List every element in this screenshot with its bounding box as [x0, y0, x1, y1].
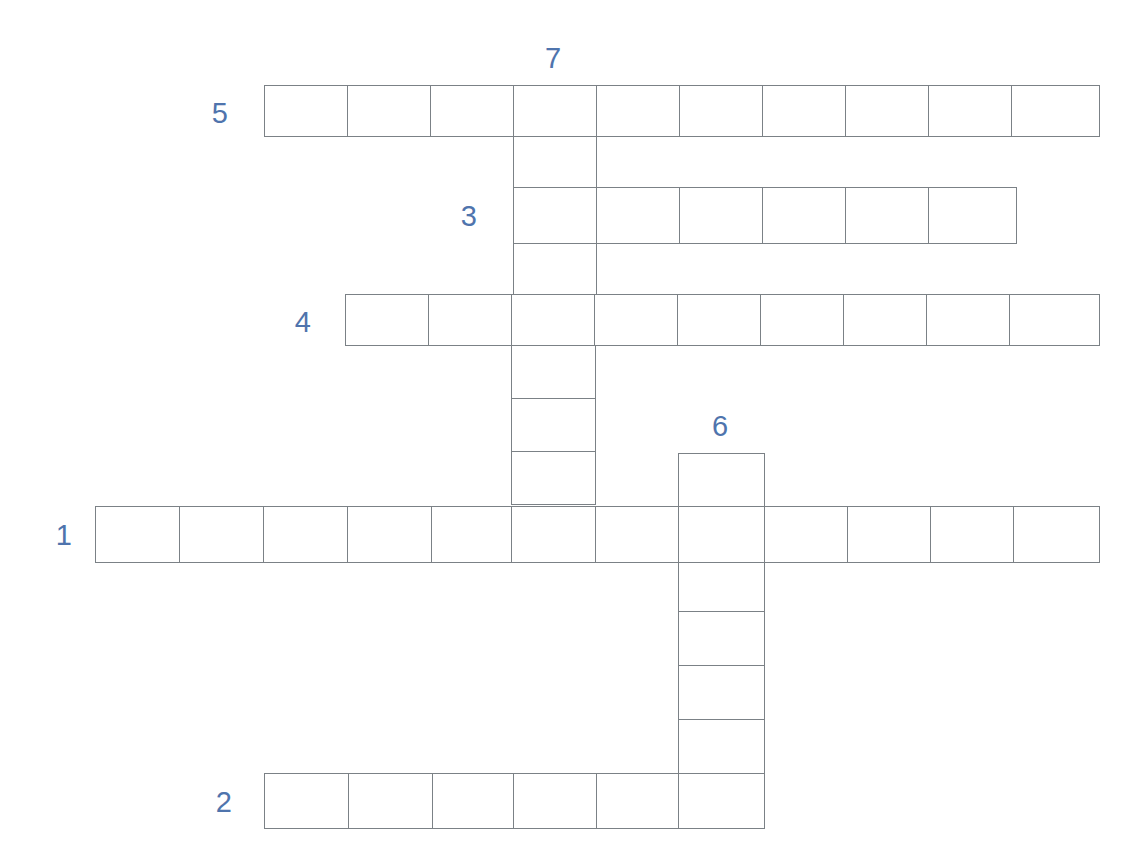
crossword-cell[interactable] — [764, 506, 848, 563]
clue-number-6[interactable]: 6 — [712, 412, 728, 441]
crossword-cell[interactable] — [678, 453, 765, 508]
crossword-cell[interactable] — [596, 187, 680, 244]
crossword-cell[interactable] — [928, 187, 1017, 244]
crossword-cell[interactable] — [264, 773, 349, 829]
crossword-cell[interactable] — [678, 773, 765, 829]
crossword-cell[interactable] — [679, 85, 763, 137]
crossword-cell[interactable] — [843, 294, 927, 346]
crossword-cell[interactable] — [678, 611, 765, 666]
crossword-cell[interactable] — [762, 85, 846, 137]
crossword-cell[interactable] — [513, 773, 597, 829]
clue-number-1[interactable]: 1 — [56, 521, 72, 550]
crossword-puzzle: 5734612 — [0, 0, 1138, 866]
crossword-cell[interactable] — [760, 294, 844, 346]
crossword-cell[interactable] — [678, 506, 765, 563]
crossword-cell[interactable] — [347, 85, 431, 137]
crossword-cell[interactable] — [511, 398, 596, 452]
crossword-cell[interactable] — [762, 187, 846, 244]
crossword-cell[interactable] — [926, 294, 1010, 346]
crossword-cell[interactable] — [847, 506, 931, 563]
crossword-cell[interactable] — [432, 773, 514, 829]
crossword-cell[interactable] — [930, 506, 1014, 563]
crossword-cell[interactable] — [679, 187, 763, 244]
clue-number-3[interactable]: 3 — [461, 202, 477, 231]
crossword-cell[interactable] — [513, 187, 597, 244]
crossword-cell[interactable] — [596, 773, 679, 829]
crossword-cell[interactable] — [95, 506, 180, 563]
crossword-cell[interactable] — [1009, 294, 1100, 346]
crossword-cell[interactable] — [678, 562, 765, 612]
crossword-cell[interactable] — [678, 665, 765, 720]
crossword-cell[interactable] — [513, 136, 597, 188]
crossword-cell[interactable] — [430, 85, 514, 137]
crossword-cell[interactable] — [513, 85, 597, 137]
crossword-cell[interactable] — [595, 506, 679, 563]
crossword-cell[interactable] — [596, 85, 680, 137]
clue-number-2[interactable]: 2 — [216, 788, 232, 817]
crossword-cell[interactable] — [511, 451, 596, 505]
crossword-cell[interactable] — [263, 506, 348, 563]
crossword-cell[interactable] — [678, 719, 765, 774]
crossword-cell[interactable] — [431, 506, 512, 563]
clue-number-4[interactable]: 4 — [295, 308, 311, 337]
crossword-cell[interactable] — [179, 506, 264, 563]
crossword-cell[interactable] — [511, 506, 596, 563]
clue-number-7[interactable]: 7 — [545, 44, 561, 73]
crossword-cell[interactable] — [845, 85, 929, 137]
crossword-cell[interactable] — [348, 773, 433, 829]
crossword-cell[interactable] — [345, 294, 429, 346]
crossword-cell[interactable] — [511, 294, 595, 346]
crossword-cell[interactable] — [845, 187, 929, 244]
crossword-cell[interactable] — [1011, 85, 1100, 137]
crossword-cell[interactable] — [513, 243, 597, 295]
crossword-cell[interactable] — [428, 294, 512, 346]
crossword-cell[interactable] — [264, 85, 348, 137]
crossword-cell[interactable] — [928, 85, 1012, 137]
clue-number-5[interactable]: 5 — [212, 99, 228, 128]
crossword-cell[interactable] — [677, 294, 761, 346]
crossword-cell[interactable] — [594, 294, 678, 346]
crossword-cell[interactable] — [1013, 506, 1100, 563]
crossword-cell[interactable] — [511, 345, 596, 399]
crossword-cell[interactable] — [347, 506, 432, 563]
